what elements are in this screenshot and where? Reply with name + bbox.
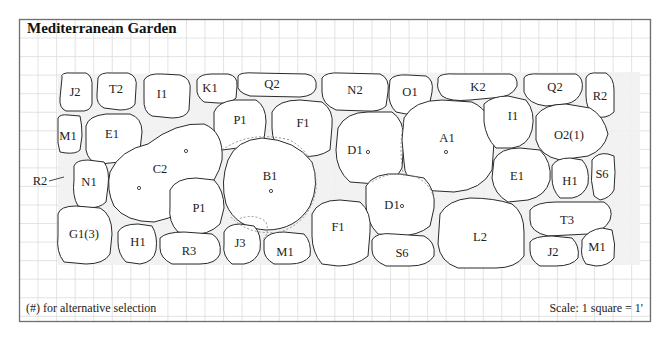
center-c2-upper [184,149,187,152]
label-m1-right: M1 [588,240,605,254]
label-b1: B1 [263,169,278,183]
label-q2-left: Q2 [264,77,279,91]
bed-b1 [223,138,315,230]
label-l2: L2 [473,230,487,244]
label-d1-top: D1 [347,143,362,157]
label-g1: G1(3) [69,227,99,241]
label-n1: N1 [81,175,96,189]
label-m1-left: M1 [59,129,76,143]
label-t2: T2 [109,82,123,96]
label-a1: A1 [439,131,454,145]
label-s6-right: S6 [595,167,608,181]
label-j2-top: J2 [69,85,80,99]
label-q2-right: Q2 [547,80,562,94]
center-a1 [444,150,447,153]
label-i1-right: I1 [508,109,518,123]
label-s6-bottom: S6 [395,246,408,260]
label-f1-bottom: F1 [331,220,344,234]
label-h1-right: H1 [562,174,577,188]
label-k1: K1 [202,81,217,95]
label-f1-top: F1 [296,116,309,130]
label-r2-right: R2 [593,89,608,103]
label-r3: R3 [182,244,197,258]
label-c2: C2 [153,162,168,176]
label-m1-middle: M1 [276,245,293,259]
label-k2: K2 [470,80,485,94]
garden-plan: Mediterranean Garden [0,0,669,340]
label-p1-bottom: P1 [192,201,205,215]
label-p1-top: P1 [233,113,246,127]
label-j2-bottom: J2 [547,245,558,259]
label-e1-left: E1 [105,127,119,141]
label-o1: O1 [402,85,417,99]
center-d1-bottom [400,204,403,207]
legend-note: (#) for alternative selection [26,301,156,315]
label-n2: N2 [347,83,362,97]
label-d1-bottom: D1 [384,198,399,212]
label-j3: J3 [234,236,245,250]
bed-d1-top [336,112,404,184]
label-t3: T3 [560,213,574,227]
label-r2-left: R2 [33,174,48,188]
scale-note: Scale: 1 square = 1' [549,301,643,315]
label-o2: O2(1) [554,128,584,142]
bed-d1-bottom [366,174,434,236]
center-b1 [269,189,272,192]
label-e1-right: E1 [510,169,524,183]
center-d1-top [366,150,369,153]
plan-title: Mediterranean Garden [27,20,177,36]
center-c2-lower [137,186,140,189]
label-h1-left: H1 [130,235,145,249]
label-i1-top: I1 [157,87,167,101]
